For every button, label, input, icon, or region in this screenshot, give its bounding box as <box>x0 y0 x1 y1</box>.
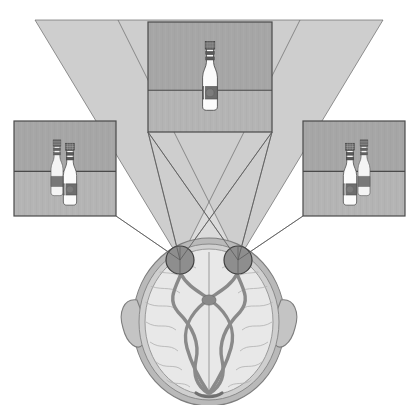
panel-left-eye-view[interactable] <box>14 121 116 216</box>
optic-chiasm <box>202 295 216 305</box>
binocular-vision-diagram <box>0 0 418 405</box>
diagram-canvas <box>0 0 418 405</box>
panel-center-fixation-view[interactable] <box>148 22 272 132</box>
panel-right-eye-view[interactable] <box>303 121 405 216</box>
